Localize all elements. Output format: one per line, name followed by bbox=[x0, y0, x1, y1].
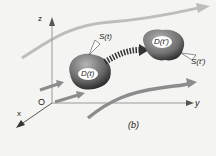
streamline-small-2 bbox=[55, 95, 78, 102]
y-axis-label: y bbox=[195, 99, 200, 108]
z-axis-arrow-icon bbox=[49, 17, 55, 26]
z-axis-label: z bbox=[38, 15, 42, 23]
x-axis-label: x bbox=[17, 110, 21, 118]
streamline-small-1 bbox=[40, 84, 58, 90]
y-axis-arrow-icon bbox=[186, 100, 194, 106]
surface-s-t-label: S(t) bbox=[99, 33, 112, 41]
x-axis bbox=[20, 103, 52, 125]
region-d-t-prime-label: D(t') bbox=[154, 38, 169, 46]
streamline-bottom bbox=[88, 83, 190, 118]
surface-s-t-prime-label: S(t') bbox=[191, 58, 205, 66]
origin-label: O bbox=[38, 98, 45, 107]
figure-caption: (b) bbox=[128, 121, 139, 130]
region-d-t-label: D(t) bbox=[81, 70, 94, 78]
transfer-arrow bbox=[105, 50, 140, 62]
arrowhead-icon bbox=[196, 3, 210, 13]
surface-pointer-s-t bbox=[89, 40, 100, 55]
diagram-canvas bbox=[0, 0, 216, 156]
x-axis-arrow-icon bbox=[16, 120, 25, 128]
